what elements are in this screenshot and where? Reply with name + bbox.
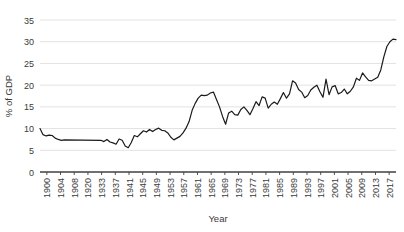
y-tick-label: 20 — [24, 81, 34, 91]
data-series-line — [40, 39, 396, 148]
x-tick-label: 1957 — [179, 178, 189, 198]
x-tick-label: 1920 — [83, 178, 93, 198]
x-tick-label: 1973 — [234, 178, 244, 198]
line-chart: 05101520253035 1900190419081920193319371… — [0, 0, 404, 232]
y-tick-label: 15 — [24, 102, 34, 112]
y-tick-label: 5 — [29, 146, 34, 156]
y-tick-label: 0 — [29, 168, 34, 178]
x-tick-label: 1989 — [289, 178, 299, 198]
x-tick-label: 1900 — [42, 178, 52, 198]
y-axis-tick-labels: 05101520253035 — [24, 16, 34, 178]
y-tick-label: 30 — [24, 37, 34, 47]
y-tick-label: 25 — [24, 59, 34, 69]
x-tick-label: 2009 — [357, 178, 367, 198]
x-tick-label: 1908 — [70, 178, 80, 198]
y-tick-label: 10 — [24, 124, 34, 134]
y-tick-label: 35 — [24, 16, 34, 26]
x-tick-label: 2001 — [330, 178, 340, 198]
x-tick-label: 1933 — [97, 178, 107, 198]
x-tick-label: 1941 — [125, 178, 135, 198]
x-tick-label: 1981 — [261, 178, 271, 198]
x-tick-label: 1969 — [220, 178, 230, 198]
chart-container: 05101520253035 1900190419081920193319371… — [0, 0, 404, 232]
y-axis-title: % of GDP — [3, 75, 14, 117]
x-tick-label: 1953 — [166, 178, 176, 198]
x-tick-label: 1937 — [111, 178, 121, 198]
x-tick-label: 1904 — [56, 178, 66, 198]
x-tick-label: 1945 — [138, 178, 148, 198]
x-tick-label: 1997 — [316, 178, 326, 198]
gridlines-group — [40, 20, 396, 150]
x-tick-label: 1977 — [248, 178, 258, 198]
x-tick-label: 2013 — [371, 178, 381, 198]
x-axis-tick-labels: 1900190419081920193319371941194519491953… — [42, 178, 394, 198]
x-tick-label: 1985 — [275, 178, 285, 198]
x-tick-label: 1993 — [303, 178, 313, 198]
x-tick-label: 1961 — [193, 178, 203, 198]
x-tick-label: 1965 — [207, 178, 217, 198]
x-tick-label: 2017 — [385, 178, 395, 198]
x-tick-label: 2005 — [344, 178, 354, 198]
x-tick-label: 1949 — [152, 178, 162, 198]
series-path — [40, 39, 396, 148]
x-axis-title: Year — [208, 213, 227, 224]
